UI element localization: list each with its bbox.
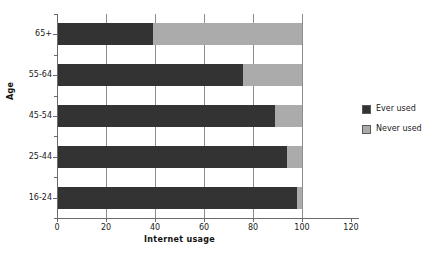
y-axis-label-55-64: 55-64	[0, 70, 52, 80]
y-axis-tick-45-54	[53, 116, 57, 117]
x-axis-tick-60	[204, 218, 205, 222]
y-axis-tick-55-64	[53, 75, 57, 76]
y-axis-label-16-24: 16-24	[0, 193, 52, 203]
bar-row-25-44	[57, 146, 302, 168]
bar-segment-never-used-25-44	[287, 146, 302, 168]
y-axis-minor-tick-1	[54, 55, 57, 56]
legend-label-ever-used: Ever used	[376, 104, 416, 114]
x-axis-tick-80	[253, 218, 254, 222]
x-axis-tick-100	[302, 218, 303, 222]
bar-segment-never-used-16-24	[297, 187, 302, 209]
y-axis-minor-tick-0	[54, 14, 57, 15]
chart-legend: Ever usedNever used	[362, 101, 436, 141]
gridline-x-100	[302, 14, 303, 218]
bar-segment-ever-used-65+	[57, 23, 153, 45]
chart-figure: 16-2425-4445-5455-6465+ 020406080100120 …	[0, 0, 439, 259]
y-axis-tick-65+	[53, 34, 57, 35]
y-axis-spine	[57, 14, 58, 218]
x-axis-label-60: 60	[184, 223, 224, 233]
x-axis-label-80: 80	[233, 223, 273, 233]
bar-segment-never-used-45-54	[275, 105, 302, 127]
legend-label-never-used: Never used	[376, 124, 422, 134]
x-axis-label-100: 100	[282, 223, 322, 233]
x-axis-title: Internet usage	[57, 235, 302, 244]
bar-segment-never-used-55-64	[243, 64, 302, 86]
bar-segment-ever-used-45-54	[57, 105, 275, 127]
x-axis-label-120: 120	[331, 223, 371, 233]
bar-segment-ever-used-16-24	[57, 187, 297, 209]
y-axis-minor-tick-3	[54, 136, 57, 137]
x-axis-tick-40	[155, 218, 156, 222]
y-axis-label-25-44: 25-44	[0, 152, 52, 162]
ever-used-swatch	[362, 105, 371, 114]
never-used-swatch	[362, 125, 371, 134]
bar-segment-never-used-65+	[153, 23, 302, 45]
x-axis-tick-120	[351, 218, 352, 222]
plot-area	[57, 14, 302, 218]
y-axis-tick-25-44	[53, 157, 57, 158]
x-axis-label-40: 40	[135, 223, 175, 233]
bar-row-16-24	[57, 187, 302, 209]
x-axis-label-20: 20	[86, 223, 126, 233]
x-axis-tick-20	[106, 218, 107, 222]
y-axis-minor-tick-2	[54, 96, 57, 97]
y-axis-title: Age	[6, 82, 15, 100]
y-axis-minor-tick-5	[54, 218, 57, 219]
x-axis-tick-0	[57, 218, 58, 222]
x-axis-spine	[57, 218, 359, 219]
y-axis-tick-labels: 16-2425-4445-5455-6465+	[0, 14, 52, 218]
y-axis-label-65+: 65+	[0, 29, 52, 39]
bar-row-45-54	[57, 105, 302, 127]
y-axis-tick-16-24	[53, 198, 57, 199]
bar-segment-ever-used-55-64	[57, 64, 243, 86]
bar-row-55-64	[57, 64, 302, 86]
x-axis-label-0: 0	[37, 223, 77, 233]
legend-entry-ever-used: Ever used	[362, 101, 436, 117]
y-axis-label-45-54: 45-54	[0, 111, 52, 121]
y-axis-minor-tick-4	[54, 177, 57, 178]
bar-row-65+	[57, 23, 302, 45]
bar-segment-ever-used-25-44	[57, 146, 287, 168]
legend-entry-never-used: Never used	[362, 121, 436, 137]
